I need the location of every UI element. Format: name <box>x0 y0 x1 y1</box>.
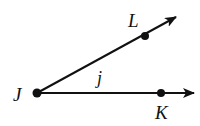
label-angle-j: j <box>95 68 102 88</box>
point-j <box>33 89 42 98</box>
angle-diagram: J L K j <box>0 0 200 126</box>
ray-jl <box>37 17 176 93</box>
label-k: K <box>154 102 169 123</box>
label-l: L <box>127 10 139 31</box>
point-l <box>141 32 149 40</box>
label-j-vertex: J <box>13 84 23 105</box>
point-k <box>157 89 165 97</box>
